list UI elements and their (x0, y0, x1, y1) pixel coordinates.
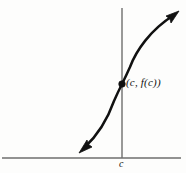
calculus-figure: (c, f(c)) c (0, 0, 186, 173)
x-axis-tick-label-c: c (119, 159, 123, 169)
curve-arrow-end-icon (166, 11, 179, 23)
point-marker (119, 81, 126, 88)
point-label: (c, f(c)) (126, 77, 161, 88)
